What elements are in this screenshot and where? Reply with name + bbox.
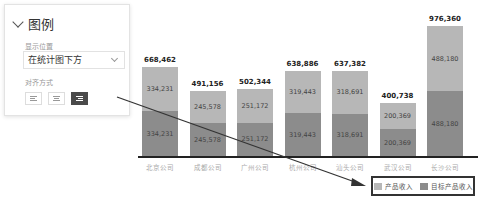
legend-label: 目标产品收入	[431, 181, 473, 191]
legend-swatch	[374, 183, 382, 190]
legend-label: 产品收入	[385, 181, 413, 191]
chart-legend: 产品收入 目标产品收入	[371, 176, 475, 196]
legend-item-product-revenue: 产品收入	[374, 181, 413, 191]
legend-swatch	[420, 183, 428, 190]
legend-item-target-revenue: 目标产品收入	[420, 181, 473, 191]
